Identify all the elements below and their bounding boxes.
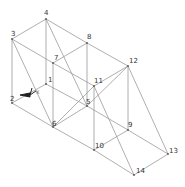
edge-12-13 xyxy=(128,66,168,154)
node-10: 10 xyxy=(93,142,104,151)
node-label: 7 xyxy=(54,54,58,62)
edge-2-6 xyxy=(12,103,53,127)
node-6: 6 xyxy=(52,120,57,128)
node-label: 12 xyxy=(129,57,138,65)
node-point xyxy=(127,65,129,67)
node-label: 10 xyxy=(95,142,104,150)
node-point xyxy=(93,85,95,87)
node-point xyxy=(127,129,129,131)
edge-5-9 xyxy=(87,106,128,130)
node-point xyxy=(86,42,88,44)
edge-7-11 xyxy=(53,63,94,86)
node-4: 4 xyxy=(44,9,49,20)
x-axis-arrow-icon xyxy=(20,93,30,97)
edge-3-4 xyxy=(12,19,46,39)
node-point xyxy=(45,18,47,20)
node-label: 13 xyxy=(169,147,178,155)
node-label: 5 xyxy=(86,98,90,106)
node-label: 14 xyxy=(136,167,145,175)
node-11: 11 xyxy=(93,77,103,87)
node-point xyxy=(52,62,54,64)
edge-group xyxy=(12,19,168,175)
node-point xyxy=(133,174,135,176)
edge-3-7 xyxy=(12,39,53,63)
axis-triad-icon: X xyxy=(20,88,40,97)
edge-8-12 xyxy=(87,43,128,66)
node-label: 2 xyxy=(10,95,14,103)
edge-9-13 xyxy=(128,130,168,154)
node-label: 11 xyxy=(94,77,103,85)
node-label: 4 xyxy=(44,9,49,17)
truss-diagram: 1234567891011121314 X xyxy=(0,0,185,187)
edge-6-10 xyxy=(53,127,94,150)
edge-3-6 xyxy=(12,39,53,127)
node-label: 3 xyxy=(11,30,15,38)
node-label: 9 xyxy=(128,121,132,129)
node-7: 7 xyxy=(52,54,58,64)
node-5: 5 xyxy=(86,98,90,107)
node-label: 6 xyxy=(52,120,57,128)
edge-6-5 xyxy=(53,106,87,127)
node-12: 12 xyxy=(127,57,138,67)
node-point xyxy=(11,38,13,40)
node-9: 9 xyxy=(127,121,132,131)
node-13: 13 xyxy=(167,147,178,155)
edge-4-8 xyxy=(46,19,87,43)
node-point xyxy=(45,83,47,85)
node-label: 8 xyxy=(87,33,91,41)
node-label: 1 xyxy=(48,76,52,84)
triad-x-label: X xyxy=(36,89,40,95)
edge-1-5 xyxy=(46,84,87,106)
node-8: 8 xyxy=(86,33,91,44)
node-2: 2 xyxy=(10,95,14,104)
